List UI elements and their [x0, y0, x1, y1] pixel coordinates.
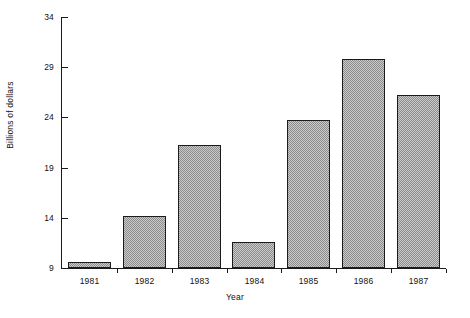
- x-tick-label: 1986: [336, 276, 391, 286]
- x-tick-label: 1985: [281, 276, 336, 286]
- plot-area: [62, 17, 445, 268]
- x-tick-1983: [227, 269, 228, 273]
- x-tick-1982: [172, 269, 173, 273]
- x-axis-title: Year: [0, 292, 470, 302]
- x-tick-label: 1982: [117, 276, 172, 286]
- x-tick-1985: [336, 269, 337, 273]
- x-tick-1987: [446, 269, 447, 273]
- y-tick-label-wrap: 34: [0, 13, 54, 22]
- y-tick-label-wrap: 14: [0, 214, 54, 223]
- bar-1983: [178, 145, 221, 268]
- x-tick-1981: [117, 269, 118, 273]
- bar-1987: [397, 95, 440, 268]
- y-tick-label: 14: [8, 214, 54, 223]
- x-axis-line: [62, 268, 446, 269]
- bar-chart-figure: 91419242934 1981198219831984198519861987…: [0, 0, 470, 318]
- x-tick-label: 1983: [172, 276, 227, 286]
- x-tick-1986: [391, 269, 392, 273]
- y-tick-label: 9: [8, 264, 54, 273]
- x-tick-label: 1987: [391, 276, 446, 286]
- bar-1985: [287, 120, 330, 268]
- x-tick-label: 1984: [227, 276, 282, 286]
- y-tick-label-wrap: 9: [0, 264, 54, 273]
- x-tick-1984: [281, 269, 282, 273]
- y-tick-label: 34: [8, 13, 54, 22]
- y-tick-9: [62, 268, 68, 269]
- x-tick-label: 1981: [62, 276, 117, 286]
- bar-1986: [342, 59, 385, 268]
- bar-1984: [232, 242, 275, 268]
- y-axis-title: Billions of dollars: [5, 61, 15, 169]
- bar-1982: [123, 216, 166, 268]
- bar-1981: [68, 262, 111, 268]
